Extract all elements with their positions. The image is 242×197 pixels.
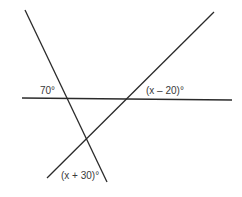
left-diagonal-line xyxy=(25,10,107,182)
angle-label-70: 70° xyxy=(40,86,55,96)
diagram-canvas xyxy=(0,0,242,197)
angle-label-x-minus-20: (x – 20)° xyxy=(146,86,184,96)
right-diagonal-line xyxy=(47,12,214,178)
angle-label-x-plus-30: (x + 30)° xyxy=(61,171,99,181)
